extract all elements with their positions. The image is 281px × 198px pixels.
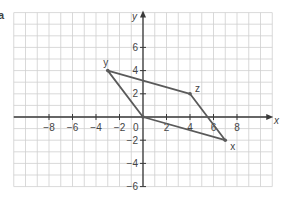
y-tick-label: −4 — [127, 158, 139, 169]
x-tick-label: −2 — [114, 122, 126, 133]
x-tick-label: −8 — [43, 122, 55, 133]
axes — [14, 11, 274, 187]
y-axis-label: y — [131, 11, 138, 22]
coordinate-grid-figure: −8−6−4−22468642−2−4−6 yzx a x y 0 — [0, 0, 281, 198]
y-tick-label: −6 — [127, 181, 139, 192]
y-tick-label: 6 — [132, 42, 138, 53]
y-tick-label: 2 — [132, 88, 138, 99]
vertex-point-x — [223, 138, 227, 142]
x-tick-label: −4 — [90, 122, 102, 133]
vertex-point-y — [106, 69, 110, 73]
y-tick-label: 4 — [132, 65, 138, 76]
y-tick-label: −2 — [127, 135, 139, 146]
vertex-label-z: z — [195, 83, 200, 94]
part-label: a — [0, 9, 5, 21]
y-axis-arrow-icon — [140, 11, 146, 18]
vertex-label-x: x — [230, 141, 235, 152]
vertex-point-origin — [141, 115, 145, 119]
x-tick-label: −6 — [67, 122, 79, 133]
origin-label: 0 — [133, 122, 139, 133]
vertex-label-y: y — [103, 57, 108, 68]
x-tick-label: 8 — [234, 122, 240, 133]
vertex-point-z — [188, 92, 192, 96]
coordinate-plane: −8−6−4−22468642−2−4−6 yzx a x y 0 — [0, 0, 281, 198]
x-axis-label: x — [273, 115, 280, 126]
